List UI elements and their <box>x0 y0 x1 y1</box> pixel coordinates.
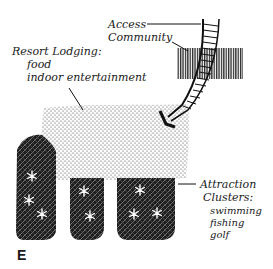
label-resort-entertainment: indoor entertainment <box>27 71 147 84</box>
resort-lodging-area <box>40 104 189 180</box>
panel-letter: E <box>17 247 26 263</box>
label-golf: golf <box>210 229 232 240</box>
label-attraction-clusters: Clusters: <box>203 191 253 204</box>
label-access: Access <box>107 18 146 31</box>
label-resort-title: Resort Lodging: <box>11 45 102 58</box>
label-fishing: fishing <box>209 217 244 228</box>
resort-diagram: Access Community Resort Lodging: food in… <box>0 0 273 269</box>
community-block <box>177 48 243 79</box>
label-swimming: swimming <box>210 205 262 216</box>
attraction-cluster-2 <box>70 178 104 240</box>
label-community: Community <box>108 31 173 44</box>
label-attraction-title: Attraction <box>199 178 256 191</box>
attraction-cluster-1 <box>16 135 56 240</box>
label-resort-food: food <box>26 58 51 71</box>
attraction-cluster-3 <box>117 178 175 240</box>
